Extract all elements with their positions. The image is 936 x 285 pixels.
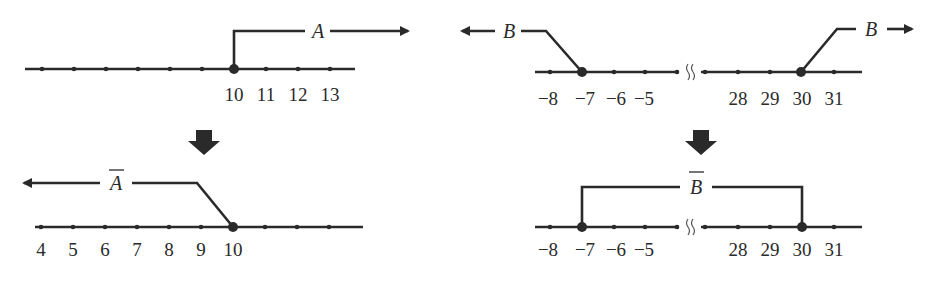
- panel-set-a: A 10 11 12 13: [25, 20, 408, 105]
- svg-text:−8: −8: [538, 88, 558, 109]
- set-label-right: B: [865, 18, 877, 40]
- svg-text:31: 31: [825, 239, 844, 260]
- svg-text:−6: −6: [606, 88, 626, 109]
- tick-labels: 10 11 12 13: [225, 84, 340, 105]
- svg-text:12: 12: [289, 84, 308, 105]
- svg-text:13: 13: [321, 84, 340, 105]
- svg-text:29: 29: [761, 88, 780, 109]
- tick-labels: 4 5 6 7 8 9 10: [36, 239, 242, 260]
- svg-text:7: 7: [132, 239, 142, 260]
- svg-text:29: 29: [761, 239, 780, 260]
- svg-text:30: 30: [793, 239, 812, 260]
- set-region-bracket: [234, 31, 305, 69]
- svg-text:9: 9: [196, 239, 206, 260]
- svg-text:10: 10: [225, 84, 244, 105]
- svg-text:30: 30: [793, 88, 812, 109]
- set-label-left: B: [503, 20, 515, 42]
- set-region-bracket-left: [582, 187, 680, 227]
- svg-text:−8: −8: [538, 239, 558, 260]
- svg-text:31: 31: [825, 88, 844, 109]
- diagram-stage: A 10 11 12 13 A 4 5 6 7 8 9 10: [0, 0, 936, 285]
- panel-set-b-complement: B −8 −7 −6 −5 28 29 30 31: [535, 172, 862, 260]
- tick-labels: −8 −7 −6 −5 28 29 30 31: [538, 88, 844, 109]
- set-label: A: [108, 172, 123, 194]
- svg-text:−7: −7: [575, 239, 595, 260]
- set-region-bracket: [132, 183, 233, 227]
- svg-text:−5: −5: [634, 88, 654, 109]
- axis-break-icon: [687, 64, 695, 80]
- set-region-bracket-right: [801, 29, 856, 72]
- svg-text:−6: −6: [606, 239, 626, 260]
- svg-text:5: 5: [68, 239, 78, 260]
- svg-text:−7: −7: [575, 88, 595, 109]
- set-region-bracket-left: [521, 31, 582, 72]
- svg-text:4: 4: [36, 239, 46, 260]
- panel-set-b: B B −8 −7 −6 −5 28 29 30 31: [462, 18, 912, 109]
- axis-break-icon: [687, 219, 695, 235]
- set-region-bracket-right: [712, 187, 802, 227]
- svg-text:11: 11: [257, 84, 275, 105]
- down-arrow-icon: [685, 130, 717, 155]
- svg-text:6: 6: [100, 239, 110, 260]
- svg-text:−5: −5: [634, 239, 654, 260]
- down-arrow-icon: [188, 130, 220, 155]
- set-label: A: [310, 20, 325, 42]
- svg-text:28: 28: [729, 88, 748, 109]
- svg-text:8: 8: [164, 239, 174, 260]
- panel-set-a-complement: A 4 5 6 7 8 9 10: [24, 170, 363, 260]
- tick-labels: −8 −7 −6 −5 28 29 30 31: [538, 239, 844, 260]
- svg-text:10: 10: [224, 239, 243, 260]
- svg-text:28: 28: [729, 239, 748, 260]
- diagram-svg: A 10 11 12 13 A 4 5 6 7 8 9 10: [0, 0, 936, 285]
- set-label: B: [690, 176, 702, 198]
